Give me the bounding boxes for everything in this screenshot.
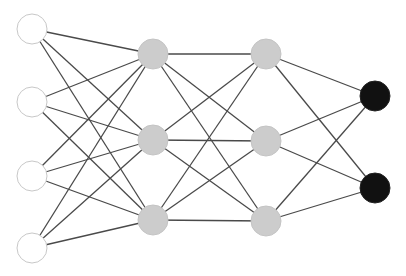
output-neuron-2: [360, 173, 390, 203]
connection-line: [32, 140, 153, 248]
output-neuron-1: [360, 81, 390, 111]
connection-line: [32, 29, 153, 54]
hidden-1-neuron-1: [138, 39, 168, 69]
connection-line: [32, 102, 153, 220]
connection-line: [32, 29, 153, 220]
connection-line: [32, 54, 153, 248]
hidden-2-neuron-1: [251, 39, 281, 69]
connection-line: [266, 96, 375, 221]
input-neuron-4: [17, 233, 47, 263]
connection-line: [266, 54, 375, 188]
connection-line: [32, 176, 153, 220]
network-graph: [0, 0, 406, 276]
neural-network-diagram: [0, 0, 406, 276]
connection-line: [266, 96, 375, 141]
hidden-2-neuron-3: [251, 206, 281, 236]
connection-line: [153, 220, 266, 221]
connection-line: [32, 220, 153, 248]
connection-line: [32, 102, 153, 140]
input-neuron-2: [17, 87, 47, 117]
hidden-2-neuron-2: [251, 126, 281, 156]
connection-line: [266, 141, 375, 188]
hidden-1-neuron-2: [138, 125, 168, 155]
connection-line: [153, 140, 266, 141]
connection-line: [266, 188, 375, 221]
connection-line: [32, 54, 153, 102]
input-neuron-1: [17, 14, 47, 44]
hidden-1-neuron-3: [138, 205, 168, 235]
input-neuron-3: [17, 161, 47, 191]
connections: [32, 29, 375, 248]
